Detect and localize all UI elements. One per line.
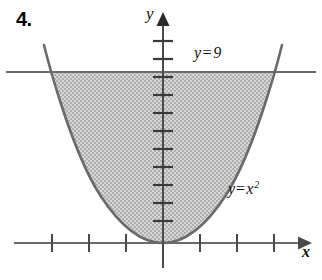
x-axis-label: x — [302, 243, 310, 261]
parabola-exponent: 2 — [254, 179, 259, 190]
problem-number-label: 4. — [16, 8, 32, 31]
figure-container: 4. y x y=9 y=x2 — [0, 0, 322, 280]
y9-equals: = — [203, 44, 214, 61]
graph-canvas — [0, 0, 322, 280]
horizontal-line-equation-label: y=9 — [194, 44, 223, 62]
parabola-lhs: y — [228, 180, 236, 197]
parabola-equation-label: y=x2 — [228, 179, 259, 198]
y-axis-arrowhead — [157, 12, 170, 26]
parabola-equals: = — [236, 180, 246, 197]
y9-rhs: 9 — [213, 44, 223, 61]
y9-lhs: y — [194, 44, 203, 61]
y-axis-label: y — [146, 4, 154, 24]
